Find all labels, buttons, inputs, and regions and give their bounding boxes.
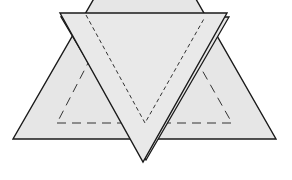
folded-triangles-diagram	[0, 0, 292, 180]
